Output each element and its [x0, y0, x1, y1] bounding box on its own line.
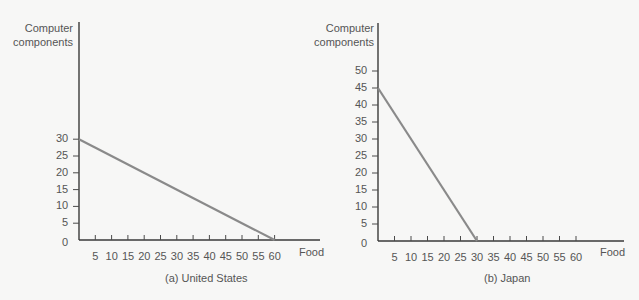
- x-tick-label: 50: [236, 250, 248, 262]
- chart-caption: (b) Japan: [484, 272, 530, 284]
- x-tick-label: 5: [92, 250, 98, 262]
- y-tick-label: 0: [361, 237, 367, 249]
- ppf-line: [378, 88, 477, 241]
- y-tick-label: 20: [56, 166, 68, 178]
- x-tick-label: 10: [106, 250, 118, 262]
- y-tick-label: 15: [355, 183, 367, 195]
- x-tick-label: 55: [554, 251, 566, 263]
- x-tick-label: 40: [203, 250, 215, 262]
- x-tick-label: 20: [438, 251, 450, 263]
- y-tick-label: 0: [62, 236, 68, 248]
- x-tick-label: 55: [252, 250, 264, 262]
- x-tick-label: 35: [187, 250, 199, 262]
- y-tick-label: 10: [56, 199, 68, 211]
- y-tick-label: 45: [355, 81, 367, 93]
- y-label-line2: components: [314, 35, 374, 49]
- y-tick-label: 5: [361, 217, 367, 229]
- y-tick-label: 40: [355, 98, 367, 110]
- x-tick-label: 60: [269, 250, 281, 262]
- y-label-line2: components: [13, 35, 73, 49]
- x-tick-label: 10: [405, 251, 417, 263]
- y-ticks: [73, 139, 79, 223]
- chart-united-states: Computer components 051015202530 5101520…: [0, 0, 320, 300]
- y-tick-label: 25: [355, 149, 367, 161]
- x-tick-label: 20: [138, 250, 150, 262]
- y-tick-label: 25: [56, 149, 68, 161]
- x-tick-label: 40: [504, 251, 516, 263]
- x-tick-label: 25: [155, 250, 167, 262]
- x-tick-label: 50: [537, 251, 549, 263]
- x-tick-label: 25: [455, 251, 467, 263]
- y-tick-label: 10: [355, 200, 367, 212]
- y-tick-label: 5: [62, 216, 68, 228]
- y-tick-label: 30: [355, 132, 367, 144]
- y-tick-label: 50: [355, 64, 367, 76]
- x-tick-label: 35: [488, 251, 500, 263]
- x-tick-label: 45: [521, 251, 533, 263]
- y-tick-label: 30: [56, 132, 68, 144]
- x-tick-label: 15: [122, 250, 134, 262]
- y-ticks: [372, 71, 378, 224]
- x-axis-label: Food: [600, 246, 625, 258]
- x-tick-label: 45: [220, 250, 232, 262]
- y-tick-label: 15: [56, 183, 68, 195]
- y-axis-label: Computer components: [314, 21, 374, 49]
- chart-caption: (a) United States: [165, 272, 248, 284]
- x-tick-label: 30: [471, 251, 483, 263]
- y-tick-label: 20: [355, 166, 367, 178]
- x-tick-label: 5: [392, 251, 398, 263]
- chart-japan: Computer components 05101520253035404550…: [320, 0, 639, 300]
- y-axis-label: Computer components: [13, 21, 73, 49]
- x-ticks: [395, 236, 577, 241]
- x-tick-label: 60: [570, 251, 582, 263]
- y-label-line1: Computer: [13, 21, 73, 35]
- ppf-line: [79, 139, 275, 240]
- x-tick-label: 30: [171, 250, 183, 262]
- y-label-line1: Computer: [314, 21, 374, 35]
- y-tick-label: 35: [355, 115, 367, 127]
- x-ticks: [95, 235, 274, 240]
- x-tick-label: 15: [422, 251, 434, 263]
